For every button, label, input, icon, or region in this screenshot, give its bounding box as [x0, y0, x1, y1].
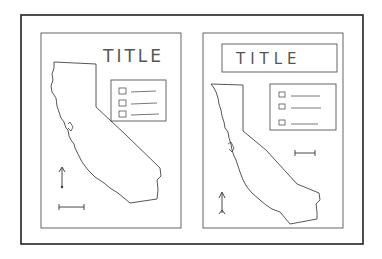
left-north-arrow-icon: [59, 167, 65, 188]
right-legend-box: [270, 84, 336, 130]
map-layout-diagram: TITLE TITLE: [0, 0, 382, 259]
left-bay-detail: [68, 122, 73, 131]
left-title: TITLE: [102, 46, 164, 66]
right-legend: [270, 84, 336, 130]
left-scale-bar: [59, 204, 84, 210]
right-scale-bar: [295, 150, 315, 156]
right-north-arrow-icon: [219, 192, 225, 214]
left-panel: TITLE: [41, 33, 181, 228]
right-title: TITLE: [235, 50, 302, 68]
left-legend: [111, 80, 166, 121]
right-panel: TITLE: [203, 33, 343, 228]
